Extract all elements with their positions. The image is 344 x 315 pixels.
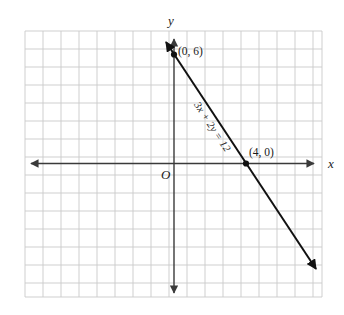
line-graph-figure: y x O (0, 6) (4, 0) 3x + 2y = 12 [0, 0, 344, 315]
point-marker-x-intercept [243, 160, 249, 166]
point-marker-y-intercept [171, 51, 177, 57]
origin-label: O [161, 168, 170, 181]
coordinate-plane-svg [0, 0, 344, 315]
y-intercept-point-label: (0, 6) [178, 46, 203, 58]
x-intercept-point-label: (4, 0) [249, 147, 274, 159]
x-axis-label: x [328, 157, 334, 170]
y-axis-label: y [168, 14, 174, 27]
